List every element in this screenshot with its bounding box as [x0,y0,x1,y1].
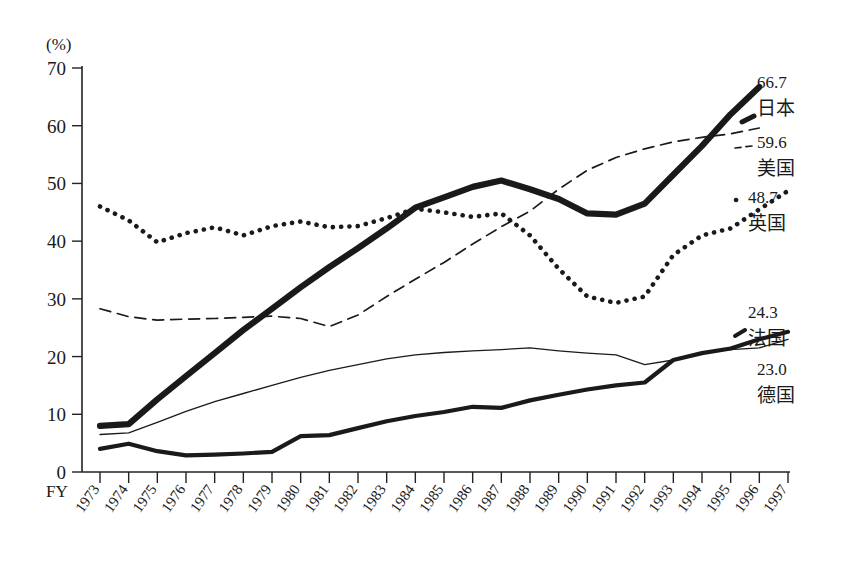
y-axis-tick-label: 60 [47,116,66,137]
y-axis-tick-label: 70 [47,58,66,79]
series-end-name-0: 日本 [757,98,795,119]
y-axis-tick-label: 30 [47,289,66,310]
series-end-name-1: 美国 [757,158,795,179]
series-end-name-4: 德国 [757,385,795,406]
line-chart: (%) 010203040506070 19731974197519761977… [0,0,841,564]
series-end-value-1: 59.6 [757,133,787,152]
chart-canvas: (%) 010203040506070 19731974197519761977… [0,0,841,564]
y-axis-tick-label: 50 [47,173,66,194]
y-axis-tick-label: 0 [57,462,67,483]
y-axis-unit-label: (%) [46,35,71,54]
y-axis-tick-label: 10 [47,404,66,425]
series-end-name-3: 法国 [748,328,786,349]
chart-background [0,0,841,564]
series-end-value-3: 24.3 [748,303,778,322]
y-axis-tick-label: 40 [47,231,66,252]
series-end-value-4: 23.0 [757,360,787,379]
series-end-name-2: 英国 [748,213,786,234]
x-axis-fy-label: FY [46,482,68,501]
series-end-value-0: 66.7 [757,73,787,92]
series-end-value-2: 48.7 [748,188,778,207]
y-axis-tick-label: 20 [47,347,66,368]
